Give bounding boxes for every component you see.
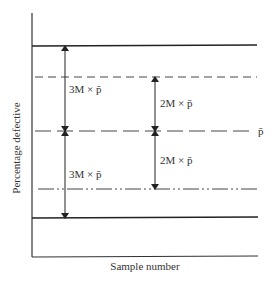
lower-action-limit-line	[32, 217, 258, 218]
upper-3m-label: 3M × p̄	[69, 83, 102, 95]
control-chart-diagram: 3M × p̄ 3M × p̄ 2M × p̄ 2M × p̄ p̄ Sampl…	[0, 0, 275, 281]
center-line-label: p̄	[258, 125, 264, 137]
lower-2m-label: 2M × p̄	[160, 154, 193, 166]
lower-3m-label: 3M × p̄	[69, 168, 102, 180]
y-axis-label: Percentage defective	[10, 102, 22, 193]
upper-action-limit-line	[32, 45, 257, 46]
x-axis	[32, 256, 258, 257]
x-axis-label: Sample number	[110, 260, 180, 272]
upper-2m-label: 2M × p̄	[160, 97, 193, 109]
